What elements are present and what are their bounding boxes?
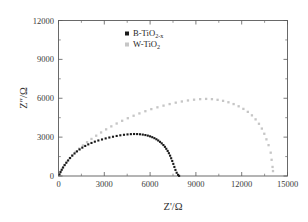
data-point — [84, 145, 86, 147]
data-point — [81, 147, 83, 149]
data-point — [149, 135, 151, 137]
y-axis-title: Z″/Ω — [18, 87, 29, 109]
y-tick-label: 6000 — [37, 93, 54, 103]
data-point — [251, 114, 253, 116]
data-point — [254, 118, 256, 120]
data-point — [168, 152, 170, 154]
data-point — [59, 171, 61, 173]
data-point — [138, 112, 140, 114]
data-point — [76, 150, 78, 152]
data-point — [162, 144, 164, 146]
data-point — [147, 135, 149, 137]
data-point — [86, 141, 88, 143]
data-point — [193, 99, 195, 101]
data-point — [112, 136, 114, 138]
legend-label-b-main: B-TiO — [133, 28, 155, 38]
data-point — [169, 155, 171, 157]
data-point — [232, 103, 234, 105]
data-point — [272, 170, 274, 172]
data-point — [67, 159, 69, 161]
data-point — [116, 122, 118, 124]
data-point — [175, 102, 177, 104]
legend-label-w-sub: 2 — [157, 43, 160, 50]
data-point — [199, 98, 201, 100]
data-point — [170, 157, 172, 159]
data-point — [164, 146, 166, 148]
nyquist-plot-figure: 03000600090001200015000 0300060009000120… — [0, 0, 308, 222]
data-point — [65, 162, 67, 164]
data-point — [165, 148, 167, 150]
data-point — [69, 157, 71, 159]
data-point — [216, 99, 218, 101]
data-point — [271, 166, 273, 168]
y-tick-label: 0 — [50, 171, 54, 181]
data-point — [90, 142, 92, 144]
data-point — [121, 120, 123, 122]
data-point — [247, 111, 249, 113]
x-tick-label: 0 — [56, 179, 60, 189]
y-tick-label: 9000 — [37, 54, 54, 64]
data-point — [61, 169, 63, 171]
data-point — [178, 175, 180, 177]
data-point — [156, 106, 158, 108]
data-point — [87, 143, 89, 145]
data-point — [133, 133, 135, 135]
data-point — [144, 110, 146, 112]
x-tick-label: 9000 — [187, 179, 204, 189]
legend-label-w-main: W-TiO — [133, 39, 157, 49]
legend-label-b-sub: 2-x — [155, 32, 164, 39]
data-point — [151, 136, 153, 138]
data-point — [126, 133, 128, 135]
data-point — [73, 152, 75, 154]
data-point — [132, 115, 134, 117]
y-axis-title-unit: /Ω — [18, 87, 29, 98]
data-point — [258, 123, 260, 125]
data-point — [144, 134, 146, 136]
data-point — [173, 166, 175, 168]
data-point — [174, 169, 176, 171]
data-point — [181, 100, 183, 102]
data-point — [130, 133, 132, 135]
data-point — [242, 108, 244, 110]
x-tick-label: 3000 — [96, 179, 113, 189]
data-point — [176, 172, 178, 174]
data-point — [105, 137, 107, 139]
eis-nyquist-chart: 03000600090001200015000 0300060009000120… — [0, 0, 308, 222]
data-point — [100, 131, 102, 133]
data-point — [95, 135, 97, 137]
data-point — [94, 141, 96, 143]
data-point — [265, 138, 267, 140]
data-point — [238, 105, 240, 107]
x-tick-label: 6000 — [142, 179, 159, 189]
data-point — [127, 117, 129, 119]
data-point — [157, 139, 159, 141]
data-point — [168, 103, 170, 105]
data-point — [167, 150, 169, 152]
data-point — [97, 139, 99, 141]
data-point — [270, 159, 272, 161]
data-point — [82, 144, 84, 146]
data-point — [142, 134, 144, 136]
svg-text:W-TiO2: W-TiO2 — [133, 39, 160, 50]
data-point — [79, 148, 81, 150]
data-point — [222, 100, 224, 102]
data-point — [58, 173, 60, 175]
data-point — [110, 125, 112, 127]
data-point — [211, 98, 213, 100]
data-point — [263, 133, 265, 135]
data-point — [267, 144, 269, 146]
data-point — [108, 136, 110, 138]
y-tick-label: 12000 — [33, 16, 54, 26]
svg-text:Z″/Ω: Z″/Ω — [18, 87, 29, 109]
data-point — [90, 138, 92, 140]
data-point — [123, 134, 125, 136]
data-point — [116, 135, 118, 137]
x-tick-label: 12000 — [231, 179, 252, 189]
data-point — [71, 155, 73, 157]
data-point — [171, 160, 173, 162]
data-point — [270, 152, 272, 154]
data-point — [136, 133, 138, 135]
data-point — [64, 164, 66, 166]
data-point — [119, 134, 121, 136]
data-point — [172, 163, 174, 165]
